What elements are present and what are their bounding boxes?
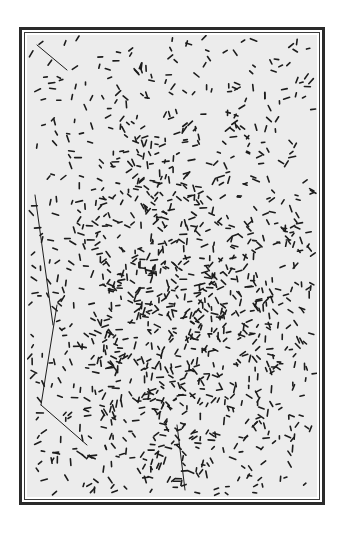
image-frame-inner bbox=[24, 32, 320, 500]
image-frame-outer bbox=[19, 27, 325, 505]
bacteria-field bbox=[27, 35, 317, 497]
bacteria-micrograph bbox=[27, 35, 317, 497]
bacteria-rods bbox=[28, 36, 317, 496]
